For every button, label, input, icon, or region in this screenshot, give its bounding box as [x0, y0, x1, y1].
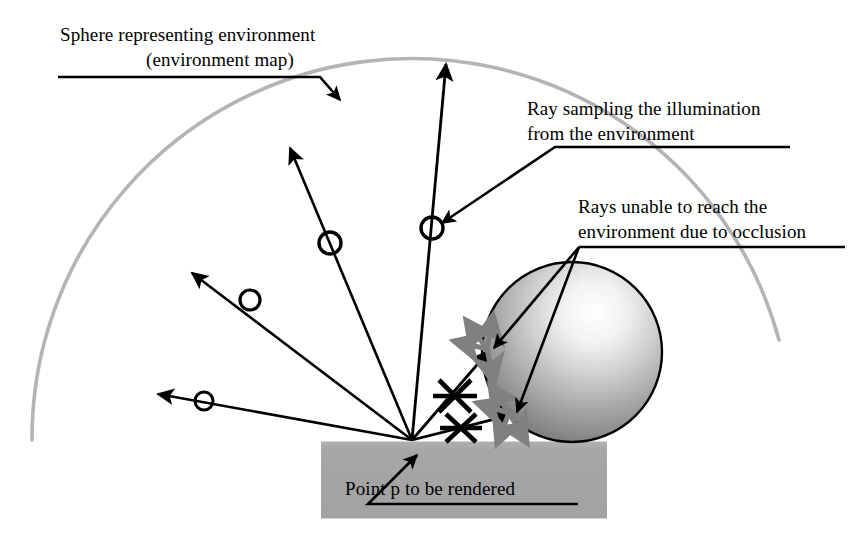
- label-ray-sampling-line2: from the environment: [527, 123, 695, 144]
- label-rays-unable-to-reach: Rays unable to reach the environment due…: [578, 194, 806, 244]
- label-point-p-to-be-rendered: Point p to be rendered: [345, 476, 515, 501]
- label-point-p-suffix: to be rendered: [400, 478, 515, 499]
- diagram-svg: [0, 0, 862, 547]
- label-ray-sampling-line1: Ray sampling the illumination: [527, 98, 761, 119]
- label-point-p-prefix: Point: [345, 478, 390, 499]
- label-ray-sampling-illumination: Ray sampling the illumination from the e…: [527, 96, 761, 146]
- label-sphere-representing-environment: Sphere representing environment (environ…: [60, 22, 315, 72]
- label-point-p-symbol: p: [390, 478, 400, 499]
- ray-sample-markers: [195, 217, 443, 410]
- label-sphere-env-line2: (environment map): [60, 47, 315, 72]
- occlusion-cross-lower: [440, 414, 482, 442]
- figure-canvas: Sphere representing environment (environ…: [0, 0, 862, 547]
- ray-mid-left: [290, 148, 412, 440]
- label-occlusion-line2: environment due to occlusion: [578, 221, 806, 242]
- label-sphere-env-line1: Sphere representing environment: [60, 24, 315, 45]
- ray-upper-left: [192, 273, 412, 440]
- leader-sphere-environment: [58, 77, 340, 100]
- sample-marker-2: [240, 290, 260, 310]
- label-occlusion-line1: Rays unable to reach the: [578, 196, 767, 217]
